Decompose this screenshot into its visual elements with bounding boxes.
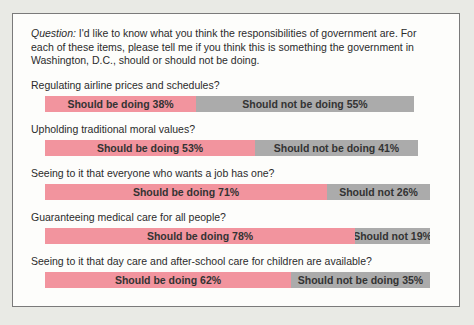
should-segment-label: Should be doing 78%: [147, 230, 253, 242]
should-not-segment: Should not be doing 55%: [196, 96, 414, 112]
question-preamble: Question: I'd like to know what you thin…: [31, 27, 451, 68]
should-not-segment-label: Should not be doing 55%: [242, 98, 367, 110]
stacked-bar: Should be doing 78% Should not 19%: [45, 228, 451, 244]
item-question: Seeing to it that day care and after-sch…: [31, 255, 451, 268]
should-not-segment: Should not 26%: [327, 184, 430, 200]
should-segment-label: Should be doing 53%: [97, 142, 203, 154]
should-not-segment-label: Should not be doing 41%: [274, 142, 399, 154]
question-line-3: Washington, D.C., should or should not b…: [31, 54, 451, 68]
item-question: Regulating airline prices and schedules?: [31, 79, 451, 92]
survey-item-row: Regulating airline prices and schedules?…: [31, 79, 451, 112]
question-prefix: Question:: [31, 27, 76, 39]
should-segment: Should be doing 62%: [45, 272, 291, 288]
stacked-bar: Should be doing 53% Should not be doing …: [45, 140, 451, 156]
question-line-2: each of these items, please tell me if y…: [31, 41, 451, 55]
should-segment: Should be doing 38%: [45, 96, 196, 112]
survey-item-row: Upholding traditional moral values? Shou…: [31, 123, 451, 156]
stacked-bar: Should be doing 71% Should not 26%: [45, 184, 451, 200]
should-not-segment: Should not be doing 41%: [255, 140, 418, 156]
should-not-segment-label: Should not 26%: [339, 186, 418, 198]
should-segment-label: Should be doing 62%: [115, 274, 221, 286]
should-not-segment: Should not be doing 35%: [291, 272, 430, 288]
should-segment: Should be doing 53%: [45, 140, 255, 156]
question-line-1: Question: I'd like to know what you thin…: [31, 27, 451, 41]
should-segment-label: Should be doing 38%: [67, 98, 173, 110]
survey-item-row: Seeing to it that day care and after-sch…: [31, 255, 451, 288]
should-segment: Should be doing 71%: [45, 184, 327, 200]
stacked-bar: Should be doing 38% Should not be doing …: [45, 96, 451, 112]
item-question: Seeing to it that everyone who wants a j…: [31, 167, 451, 180]
bar-rows: Regulating airline prices and schedules?…: [31, 79, 451, 288]
should-segment: Should be doing 78%: [45, 228, 355, 244]
question-line-1-text: I'd like to know what you think the resp…: [76, 27, 417, 39]
should-segment-label: Should be doing 71%: [133, 186, 239, 198]
stacked-bar: Should be doing 62% Should not be doing …: [45, 272, 451, 288]
should-not-segment: Should not 19%: [355, 228, 430, 244]
survey-figure-box: Question: I'd like to know what you thin…: [12, 13, 460, 307]
survey-item-row: Seeing to it that everyone who wants a j…: [31, 167, 451, 200]
item-question: Upholding traditional moral values?: [31, 123, 451, 136]
item-question: Guaranteeing medical care for all people…: [31, 211, 451, 224]
survey-item-row: Guaranteeing medical care for all people…: [31, 211, 451, 244]
should-not-segment-label: Should not 19%: [355, 230, 430, 242]
should-not-segment-label: Should not be doing 35%: [298, 274, 423, 286]
